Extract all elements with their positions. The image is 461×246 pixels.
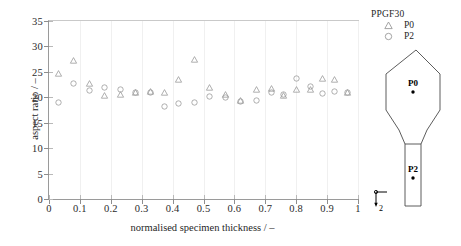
x-axis-tick-inner [358,195,359,199]
data-point-p2 [237,98,244,105]
legend: PPGF30 P0 P2 [371,9,457,41]
data-point-p2 [101,84,108,91]
data-point-p2 [331,88,338,95]
data-point-p2 [161,103,168,110]
gridline-vertical [204,21,205,199]
data-point-p0 [132,89,139,96]
y-axis-tick-inner [49,199,53,200]
data-point-p0 [319,75,326,82]
data-point-p2 [147,89,154,96]
data-point-p0 [268,85,275,92]
data-point-p2 [206,93,213,100]
data-point-p2 [307,83,314,90]
gridline-vertical [358,21,359,199]
x-axis-tick-inner [204,195,205,199]
x-axis-tick-inner [142,195,143,199]
specimen-point-label-p2: P2 [408,164,418,174]
gridline-vertical [142,21,143,199]
data-point-p2 [132,89,139,96]
data-point-p2 [253,97,260,104]
data-point-p0 [117,91,124,98]
data-point-p0 [86,80,93,87]
x-axis-tick-label: 0.2 [104,203,118,214]
plot-area: 00.10.20.30.40.50.60.70.80.9105101520253… [48,20,359,200]
data-point-p2 [191,99,198,106]
y-axis-tick-label: 5 [38,168,43,179]
y-axis-tick-label: 20 [32,92,43,103]
y-axis-tick-label: 10 [32,143,43,154]
data-point-p2 [319,90,326,97]
x-axis-tick-label: 0.9 [320,203,334,214]
data-point-p0 [222,91,229,98]
data-point-p0 [175,76,182,83]
x-axis-tick-label: 0.3 [135,203,149,214]
y-axis-tick-label: 30 [32,41,43,52]
legend-label-p0: P0 [404,20,414,30]
data-point-p2 [86,87,93,94]
data-point-p0 [147,88,154,95]
data-point-p2 [280,91,287,98]
gridline-vertical [234,21,235,199]
x-axis-tick-inner [80,195,81,199]
data-point-p0 [55,70,62,77]
gridline-vertical [296,21,297,199]
data-point-p0 [70,57,77,64]
legend-label-p2: P2 [404,31,414,41]
data-point-p2 [117,86,124,93]
y-axis-title: aspect ratio / – [29,78,40,140]
data-point-p0 [101,92,108,99]
data-point-p2 [222,94,229,101]
data-point-p0 [331,76,338,83]
y-axis-tick-label: 25 [32,66,43,77]
x-axis-tick-inner [265,195,266,199]
data-point-p2 [344,89,351,96]
data-point-p0 [206,84,213,91]
y-axis-tick-label: 0 [38,194,43,205]
y-axis-tick-inner [49,97,53,98]
legend-title: PPGF30 [371,9,457,19]
specimen-point-label-p0: P0 [408,78,418,88]
x-axis-tick-inner [296,195,297,199]
coordinate-axis-label-2: 2 [379,204,383,213]
data-point-p0 [237,97,244,104]
data-point-p0 [253,86,260,93]
gridline-vertical [80,21,81,199]
x-axis-tick-label: 0.1 [73,203,87,214]
gridline-vertical [265,21,266,199]
y-axis-tick-label: 35 [32,16,43,27]
legend-item-p0: P0 [371,20,457,30]
data-point-p2 [268,89,275,96]
data-point-p0 [307,86,314,93]
triangle-icon [381,20,395,30]
legend-item-p2: P2 [371,31,457,41]
x-axis-tick-label: 0.8 [289,203,303,214]
coordinate-axis-marker-icon [372,188,396,212]
data-point-p0 [280,92,287,99]
y-axis-tick-inner [49,123,53,124]
x-axis-tick-label: 1 [355,203,360,214]
data-point-p2 [55,99,62,106]
data-point-p2 [70,80,77,87]
y-axis-tick-inner [49,21,53,22]
gridline-vertical [173,21,174,199]
data-point-p0 [161,89,168,96]
y-axis-tick-inner [49,148,53,149]
x-axis-tick-label: 0.6 [228,203,242,214]
x-axis-tick-inner [327,195,328,199]
data-point-p0 [191,56,198,63]
gridline-vertical [327,21,328,199]
x-axis-title: normalised specimen thickness / – [48,222,357,233]
gridline-vertical [111,21,112,199]
x-axis-tick-label: 0.5 [197,203,211,214]
x-axis-tick-inner [173,195,174,199]
y-axis-tick-inner [49,46,53,47]
x-axis-tick-label: 0.7 [258,203,272,214]
y-axis-tick-inner [49,174,53,175]
x-axis-tick-inner [111,195,112,199]
data-point-p2 [175,100,182,107]
x-axis-tick-label: 0.4 [166,203,180,214]
x-axis-tick-inner [234,195,235,199]
data-point-p0 [344,89,351,96]
figure-scatter-aspect-ratio: aspect ratio / – normalised specimen thi… [0,0,461,246]
y-axis-tick-label: 15 [32,117,43,128]
